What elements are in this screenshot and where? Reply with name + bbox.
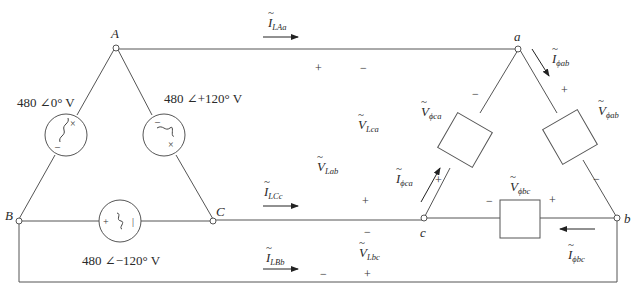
svg-text:×: × (70, 118, 76, 129)
node-label-c: c (420, 226, 426, 239)
node-A (113, 45, 119, 51)
label-V-phbc: Vϕbc (510, 180, 530, 193)
circuit-diagram: × – – × + | (0, 0, 642, 294)
sign-Lbc-minus: − (320, 268, 327, 280)
sign-Lab-minus: − (364, 226, 371, 238)
source-ac-label: 480 ∠+120° V (164, 92, 242, 105)
label-V-phca: Vϕca (421, 105, 441, 118)
label-I-LAa: ILAa (268, 16, 287, 29)
sign-Lca-plus: + (315, 62, 322, 74)
label-I-LCc: ILCc (264, 185, 283, 198)
label-V-Lca: VLca (358, 118, 379, 131)
source-ac-circle (143, 114, 185, 156)
node-label-a: a (514, 30, 521, 43)
svg-text:+: + (103, 216, 109, 227)
impedance-bc-box (500, 200, 540, 238)
sign-Lbc-plus: + (364, 268, 371, 280)
label-V-Lab: VLab (317, 160, 338, 173)
node-label-A: A (111, 27, 119, 40)
sign-phab-plus: + (561, 84, 568, 96)
source-bc-label: 480 ∠−120° V (82, 254, 160, 267)
impedance-ab-box (543, 110, 598, 165)
sign-phbc-plus: + (549, 194, 556, 206)
sign-phbc-minus: − (486, 195, 493, 207)
node-B (16, 218, 22, 224)
svg-text:–: – (154, 116, 161, 127)
node-label-B: B (5, 209, 13, 222)
arrow-I-phab (532, 49, 549, 76)
label-V-Lbc: VLbc (359, 246, 380, 259)
label-I-phab: Iϕab (552, 52, 569, 65)
label-I-phca: Iϕca (396, 172, 413, 185)
impedance-ca-box (438, 113, 493, 168)
source-ab-circle (45, 114, 87, 156)
label-I-phbc: Iϕbc (568, 248, 585, 261)
node-label-b: b (624, 212, 631, 225)
label-I-LBb: ILBb (266, 251, 285, 264)
sign-phab-minus: − (593, 173, 600, 185)
node-b (614, 215, 620, 221)
sign-Lab-plus: + (362, 195, 369, 207)
svg-text:–: – (54, 141, 61, 152)
sign-Lca-minus: − (360, 62, 367, 74)
svg-text:×: × (168, 139, 174, 150)
node-a (515, 46, 521, 52)
source-ab-label: 480 ∠0° V (17, 96, 75, 109)
sign-phca-minus: − (472, 88, 479, 100)
svg-text:|: | (132, 216, 134, 227)
circuit-wires: × – – × + | (0, 0, 642, 294)
node-label-C: C (216, 205, 225, 218)
node-c (421, 215, 427, 221)
sign-phca-plus: + (435, 174, 442, 186)
label-V-phab: Vϕab (598, 104, 619, 117)
